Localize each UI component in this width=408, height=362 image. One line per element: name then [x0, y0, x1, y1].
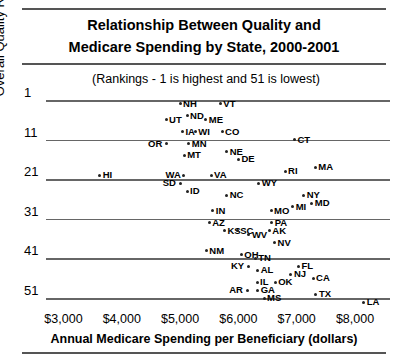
y-axis-tick-label: 31	[24, 204, 38, 219]
data-point	[194, 130, 197, 133]
data-point	[246, 289, 249, 292]
data-point-label: AK	[272, 226, 286, 236]
data-point-label: CT	[297, 135, 310, 145]
y-axis-tick-label: 21	[24, 164, 38, 179]
data-point	[312, 277, 315, 280]
data-point	[293, 138, 296, 141]
y-axis-tick-label: 51	[24, 283, 38, 298]
data-point	[247, 233, 250, 236]
data-point-label: MI	[296, 202, 307, 212]
data-point	[237, 158, 240, 161]
data-point	[284, 170, 287, 173]
data-point	[208, 221, 211, 224]
data-point	[219, 102, 222, 105]
data-point-label: ND	[190, 111, 204, 121]
data-point-label: AR	[229, 285, 243, 295]
data-point-label: MT	[187, 150, 201, 160]
data-point-label: NJ	[294, 269, 306, 279]
data-point	[182, 174, 185, 177]
x-axis-tick-label: $7,000	[267, 312, 327, 326]
data-point-label: WY	[262, 178, 277, 188]
data-point-label: TX	[319, 289, 331, 299]
x-axis-tick-label: $8,000	[325, 312, 385, 326]
data-point-label: NV	[278, 238, 291, 248]
data-point	[302, 194, 305, 197]
data-point-label: NH	[183, 99, 197, 109]
data-point-label: KY	[231, 261, 244, 271]
data-point	[257, 182, 260, 185]
chart-subtitle: (Rankings - 1 is highest and 51 is lowes…	[46, 72, 366, 86]
data-point	[179, 182, 182, 185]
data-point	[256, 269, 259, 272]
data-point	[179, 102, 182, 105]
data-point	[165, 142, 168, 145]
chart-title-line2: Medicare Spending by State, 2000-2001	[22, 36, 386, 58]
data-point	[165, 118, 168, 121]
data-point	[247, 265, 250, 268]
data-point-label: CA	[316, 273, 330, 283]
data-point-label: TN	[258, 253, 271, 263]
data-point-label: ID	[190, 186, 200, 196]
data-point-label: WI	[198, 127, 210, 137]
data-point-label: VA	[214, 170, 227, 180]
chart-title-line1: Relationship Between Quality and	[22, 14, 386, 36]
data-point	[236, 229, 239, 232]
data-point	[204, 118, 207, 121]
chart-title: Relationship Between Quality and Medicar…	[22, 14, 386, 58]
data-point-label: DE	[241, 154, 254, 164]
data-point	[310, 202, 313, 205]
title-divider	[22, 63, 386, 65]
data-point	[254, 257, 257, 260]
y-axis-tick-label: 11	[24, 125, 38, 140]
data-point	[273, 241, 276, 244]
gridline	[46, 100, 390, 102]
data-point-label: MS	[267, 293, 281, 303]
data-point-label: AZ	[212, 218, 225, 228]
x-axis-title: Annual Medicare Spending per Beneficiary…	[22, 332, 386, 346]
y-axis-title: Overall Quality Ranking	[0, 0, 7, 118]
data-point	[291, 205, 294, 208]
data-point-label: MN	[192, 139, 207, 149]
data-point	[270, 209, 273, 212]
data-point	[205, 249, 208, 252]
data-point-label: NM	[209, 246, 224, 256]
data-point-label: AL	[261, 265, 274, 275]
data-point	[181, 130, 184, 133]
data-point-label: ME	[209, 115, 223, 125]
data-point	[183, 154, 186, 157]
plot-area: NHVTUTNDMEIAWICOORMNCTMTNEDEHIRIMAWAVASD…	[46, 100, 390, 306]
data-point-label: RI	[288, 166, 298, 176]
x-axis-tick-label: $5,000	[150, 312, 210, 326]
data-point	[314, 293, 317, 296]
data-point	[263, 297, 266, 300]
data-point-label: LA	[367, 297, 380, 307]
data-point-label: WV	[252, 230, 267, 240]
data-point	[268, 229, 271, 232]
data-point-label: HI	[103, 170, 113, 180]
data-point	[186, 114, 189, 117]
data-point	[256, 281, 259, 284]
data-point	[240, 253, 243, 256]
x-axis-tick-label: $4,000	[92, 312, 152, 326]
data-point	[223, 229, 226, 232]
data-point	[210, 174, 213, 177]
top-divider	[22, 8, 386, 10]
data-point-label: IN	[216, 206, 226, 216]
data-point	[211, 209, 214, 212]
data-point	[256, 289, 259, 292]
data-point-label: MO	[274, 206, 289, 216]
data-point-label: SD	[163, 178, 176, 188]
data-point	[225, 194, 228, 197]
data-point-label: OK	[278, 277, 292, 287]
data-point	[186, 190, 189, 193]
bottom-divider	[22, 352, 386, 354]
data-point-label: OR	[148, 139, 162, 149]
data-point	[221, 130, 224, 133]
data-point	[98, 174, 101, 177]
gridline	[46, 140, 390, 142]
data-point-label: NC	[230, 190, 244, 200]
x-axis-tick-label: $6,000	[208, 312, 268, 326]
data-point-label: VT	[223, 99, 235, 109]
chart-page: Relationship Between Quality and Medicar…	[0, 0, 408, 362]
data-point-label: UT	[169, 115, 182, 125]
